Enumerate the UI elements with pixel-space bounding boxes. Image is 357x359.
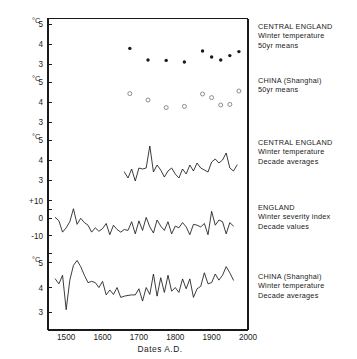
y-axis-unit-label: °C xyxy=(32,255,41,264)
y-tick-label: 3 xyxy=(38,60,43,69)
x-tick-label: 1700 xyxy=(130,333,149,342)
y-tick-label: +10 xyxy=(29,197,43,206)
legend-line: 50yr means xyxy=(258,85,322,94)
legend-central-england-decade: CENTRAL ENGLAND Winter temperature Decad… xyxy=(258,138,332,166)
legend-line: CENTRAL ENGLAND xyxy=(258,22,332,31)
legend-central-england-50yr: CENTRAL ENGLAND Winter temperature 50yr … xyxy=(258,22,332,50)
x-tick-label: 1800 xyxy=(166,333,185,342)
legend-line: ENGLAND xyxy=(258,203,330,212)
y-tick-label: -10 xyxy=(31,232,43,241)
data-point-filled xyxy=(210,55,213,58)
data-point-filled xyxy=(228,54,231,57)
data-point-open xyxy=(128,92,132,96)
x-tick-label: 2000 xyxy=(239,333,258,342)
y-tick-label: 4 xyxy=(38,156,43,165)
y-axis-unit-label: °C xyxy=(32,132,41,141)
line-series-central-england-decade xyxy=(124,146,237,181)
data-point-open xyxy=(201,92,205,96)
legend-england-severity-index: ENGLAND Winter severity index Decade val… xyxy=(258,203,330,231)
legend-line: Winter temperature xyxy=(258,147,332,156)
legend-line: Winter temperature xyxy=(258,31,332,40)
y-tick-label: 3 xyxy=(38,176,43,185)
data-point-open xyxy=(210,96,214,100)
y-tick-label: 4 xyxy=(38,40,43,49)
legend-line: CHINA (Shanghai) xyxy=(258,272,324,281)
data-point-filled xyxy=(183,60,186,63)
data-point-filled xyxy=(164,59,167,62)
y-tick-label: 4 xyxy=(38,98,43,107)
data-point-open xyxy=(228,102,232,106)
data-point-filled xyxy=(219,58,222,61)
y-tick-label: 4 xyxy=(38,284,43,293)
x-tick-label: 1900 xyxy=(203,333,222,342)
data-point-open xyxy=(237,89,241,93)
legend-line: Decade values xyxy=(258,222,330,231)
data-point-open xyxy=(146,98,150,102)
x-tick-label: 1500 xyxy=(57,333,76,342)
legend-china-shanghai-decade: CHINA (Shanghai) Winter temperature Deca… xyxy=(258,272,324,300)
data-point-filled xyxy=(237,50,240,53)
legend-china-shanghai-50yr: CHINA (Shanghai) 50yr means xyxy=(258,76,322,95)
y-axis-unit-label: °C xyxy=(32,16,41,25)
legend-line: Decade averages xyxy=(258,291,324,300)
legend-line: CENTRAL ENGLAND xyxy=(258,138,332,147)
data-point-open xyxy=(219,103,223,107)
legend-line: Winter severity index xyxy=(258,212,330,221)
scatter-series-china-shanghai-50yr xyxy=(128,89,241,110)
legend-line: 50yr means xyxy=(258,41,332,50)
line-series-england-severity-index xyxy=(55,209,233,235)
data-point-filled xyxy=(201,49,204,52)
climate-figure: 150016001700180019002000Dates A.D.345°C3… xyxy=(0,0,357,359)
legend-line: CHINA (Shanghai) xyxy=(258,76,322,85)
y-axis-unit-label: °C xyxy=(32,74,41,83)
legend-line: Winter temperature xyxy=(258,281,324,290)
data-point-filled xyxy=(146,58,149,61)
y-tick-label: 3 xyxy=(38,118,43,127)
y-tick-label: 0 xyxy=(38,214,43,223)
x-tick-label: 1600 xyxy=(93,333,112,342)
legend-line: Decade averages xyxy=(258,157,332,166)
data-point-open xyxy=(164,106,168,110)
scatter-series-central-england-50yr xyxy=(128,47,240,64)
data-point-open xyxy=(182,104,186,108)
y-tick-label: 3 xyxy=(38,308,43,317)
chart-canvas: 150016001700180019002000Dates A.D.345°C3… xyxy=(0,0,357,359)
line-series-china-shanghai-decade xyxy=(55,260,233,309)
x-axis-title: Dates A.D. xyxy=(137,344,182,354)
data-point-filled xyxy=(128,47,131,50)
